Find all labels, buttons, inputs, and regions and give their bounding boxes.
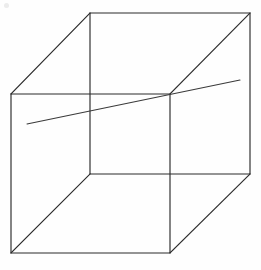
cube-connecting-edge-bottom-left: [11, 174, 90, 253]
necker-cube-drawing: [0, 0, 261, 270]
cube-connecting-edge-bottom-right: [170, 174, 250, 253]
intersecting-straight-line: [27, 80, 240, 124]
cube-connecting-edge-top-left: [11, 13, 90, 94]
paper-speck-artifact: [4, 3, 9, 8]
cube-connecting-edge-top-right: [170, 13, 250, 94]
figure-canvas: [0, 0, 261, 270]
